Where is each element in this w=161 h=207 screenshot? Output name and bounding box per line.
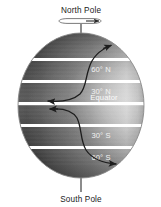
label-north-pole: North Pole — [61, 6, 101, 15]
label-lat-30s: 30° S — [91, 131, 110, 140]
earth-rotation-diagram: 60° N 30° N Equator 30° S 60° S North Po… — [0, 0, 161, 207]
diagram-canvas: 60° N 30° N Equator 30° S 60° S North Po… — [0, 0, 161, 207]
label-lat-60s: 60° S — [91, 153, 110, 162]
label-south-pole: South Pole — [60, 195, 102, 204]
label-lat-equator: Equator — [90, 93, 118, 102]
band-60s — [12, 146, 150, 149]
band-30n — [12, 80, 150, 83]
label-lat-60n: 60° N — [91, 65, 111, 74]
band-30s — [12, 124, 150, 127]
band-equator — [12, 102, 150, 105]
